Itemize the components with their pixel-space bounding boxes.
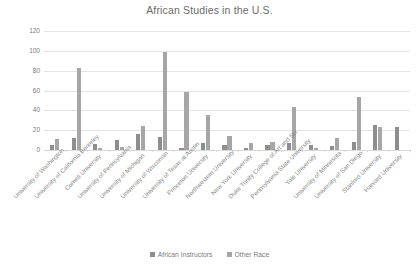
bar	[115, 140, 119, 150]
legend-item-label: African Instructors	[158, 251, 213, 258]
category-tick	[388, 150, 389, 152]
bar-group	[173, 31, 195, 150]
category-tick	[66, 150, 67, 152]
category-tick	[216, 150, 217, 152]
bar	[287, 143, 291, 150]
bar	[249, 143, 253, 150]
bar-group	[152, 31, 174, 150]
bar-group	[302, 31, 324, 150]
category-tick	[324, 150, 325, 152]
bar	[206, 115, 210, 150]
y-tick-label: 120	[0, 28, 40, 35]
category-tick	[87, 150, 88, 152]
bar-group	[44, 31, 66, 150]
y-tick-label: 20	[0, 127, 40, 134]
y-tick-label: 40	[0, 107, 40, 114]
y-tick-label: 80	[0, 67, 40, 74]
legend-swatch-icon	[150, 252, 155, 257]
plot-area	[44, 31, 410, 150]
bar-group	[216, 31, 238, 150]
bar	[141, 126, 145, 150]
bar	[335, 138, 339, 150]
bar	[352, 142, 356, 150]
bar-group	[324, 31, 346, 150]
bar-group	[130, 31, 152, 150]
category-tick	[281, 150, 282, 152]
bar-group	[345, 31, 367, 150]
legend-item[interactable]: Other Race	[227, 251, 270, 258]
category-tick	[238, 150, 239, 152]
x-axis-labels: University of WashingtonUniversity of Ca…	[0, 150, 419, 235]
category-tick	[367, 150, 368, 152]
legend-item[interactable]: African Instructors	[150, 251, 213, 258]
bar-group	[259, 31, 281, 150]
category-tick	[130, 150, 131, 152]
bar	[72, 138, 76, 150]
bar-group	[109, 31, 131, 150]
bar	[184, 92, 188, 151]
bar	[395, 127, 399, 150]
bar-group	[367, 31, 389, 150]
bar-group	[66, 31, 88, 150]
legend-item-label: Other Race	[235, 251, 270, 258]
category-tick	[195, 150, 196, 152]
bar	[163, 52, 167, 150]
legend-swatch-icon	[227, 252, 232, 257]
category-tick	[302, 150, 303, 152]
category-tick	[345, 150, 346, 152]
bar	[136, 134, 140, 150]
category-tick	[410, 150, 411, 152]
bar	[201, 143, 205, 150]
chart-title: African Studies in the U.S.	[0, 4, 419, 16]
y-tick-label: 60	[0, 87, 40, 94]
chart-container: African Studies in the U.S. 020406080100…	[0, 0, 419, 277]
x-axis-tick-label: Harvard University	[357, 153, 404, 200]
y-tick-label: 100	[0, 48, 40, 55]
bar	[357, 97, 361, 150]
category-tick	[109, 150, 110, 152]
bar-group	[238, 31, 260, 150]
category-tick	[152, 150, 153, 152]
category-tick	[173, 150, 174, 152]
bar	[158, 137, 162, 150]
bar	[378, 127, 382, 150]
bar-group	[388, 31, 410, 150]
bar	[77, 68, 81, 150]
bar	[373, 125, 377, 150]
category-tick	[259, 150, 260, 152]
y-axis: 020406080100120	[0, 31, 40, 150]
chart-legend: African InstructorsOther Race	[0, 251, 419, 258]
bar-group	[87, 31, 109, 150]
bar-group	[195, 31, 217, 150]
